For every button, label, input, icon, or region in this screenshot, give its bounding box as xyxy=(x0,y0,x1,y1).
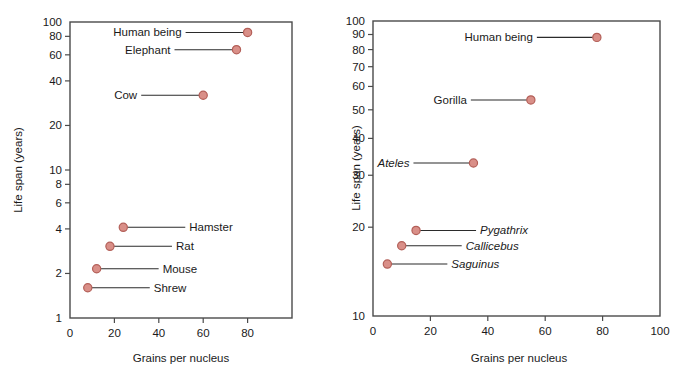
data-point: Human being xyxy=(113,26,252,38)
left-axis-tick-labels: 124681020406080100020406080 xyxy=(43,16,254,339)
right-xaxis-title: Grains per nucleus xyxy=(471,352,568,364)
right-xtick-label: 60 xyxy=(539,325,552,337)
data-point: Rat xyxy=(106,240,195,252)
right-ytick-label: 10 xyxy=(352,310,365,322)
left-ytick-label: 4 xyxy=(56,223,63,235)
data-point-label: Gorilla xyxy=(434,94,468,106)
data-point-label: Callicebus xyxy=(466,240,519,252)
data-point-label: Hamster xyxy=(189,221,233,233)
left-ytick-label: 10 xyxy=(49,164,62,176)
plot-right-svg: 102030405060708090100020406080100 Human … xyxy=(344,0,688,379)
right-plot-frame xyxy=(373,21,660,316)
data-point: Saguinus xyxy=(383,258,499,270)
plot-left-svg: 124681020406080100020406080 Human beingE… xyxy=(0,0,344,379)
right-xtick-label: 100 xyxy=(650,325,669,337)
left-ytick-label: 40 xyxy=(49,75,62,87)
data-point-label: Shrew xyxy=(154,282,187,294)
data-point-label: Ateles xyxy=(376,157,409,169)
data-point-label: Cow xyxy=(114,89,138,101)
left-data-points: Human beingElephantCowHamsterRatMouseShr… xyxy=(84,26,252,293)
figure-two-scatter-panels: 124681020406080100020406080 Human beingE… xyxy=(0,0,688,379)
data-point-label: Mouse xyxy=(163,263,198,275)
data-point: Hamster xyxy=(119,221,233,233)
data-point-label: Pygathrix xyxy=(480,224,529,236)
data-point: Shrew xyxy=(84,282,187,294)
panel-left-mammals: 124681020406080100020406080 Human beingE… xyxy=(0,0,344,379)
right-xtick-label: 0 xyxy=(370,325,376,337)
right-ytick-label: 100 xyxy=(346,15,365,27)
left-ytick-label: 60 xyxy=(49,49,62,61)
data-point: Gorilla xyxy=(434,94,535,106)
left-ytick-label: 2 xyxy=(56,267,62,279)
data-point: Elephant xyxy=(125,44,241,56)
right-ytick-label: 50 xyxy=(352,104,365,116)
right-xtick-label: 20 xyxy=(424,325,437,337)
data-point: Cow xyxy=(114,89,207,101)
data-point-label: Human being xyxy=(464,31,532,43)
left-axis-ticks xyxy=(65,36,248,323)
data-point-label: Human being xyxy=(113,26,181,38)
data-point: Mouse xyxy=(93,263,198,275)
right-ytick-label: 70 xyxy=(352,61,365,73)
left-ytick-label: 80 xyxy=(49,30,62,42)
left-ytick-label: 8 xyxy=(56,178,62,190)
panel-right-primates: 102030405060708090100020406080100 Human … xyxy=(344,0,688,379)
left-yaxis-title: Life span (years) xyxy=(12,127,24,213)
left-xtick-label: 80 xyxy=(241,327,254,339)
left-ytick-label: 20 xyxy=(49,119,62,131)
right-yaxis-title: Life span (years) xyxy=(350,125,362,211)
right-ytick-label: 80 xyxy=(352,44,365,56)
data-point: Human being xyxy=(464,31,601,43)
left-xtick-label: 20 xyxy=(108,327,121,339)
right-xtick-label: 80 xyxy=(596,325,609,337)
data-point: Ateles xyxy=(376,157,477,169)
data-point: Callicebus xyxy=(398,240,519,252)
left-ytick-label: 6 xyxy=(56,197,62,209)
right-ytick-label: 20 xyxy=(352,221,365,233)
right-data-points: Human beingGorillaAtelesPygathrixCallice… xyxy=(376,31,600,270)
data-point-label: Saguinus xyxy=(451,258,499,270)
right-xtick-label: 40 xyxy=(481,325,494,337)
left-ytick-label: 1 xyxy=(56,312,62,324)
left-xtick-label: 60 xyxy=(197,327,210,339)
data-point-label: Rat xyxy=(176,240,195,252)
right-ytick-label: 60 xyxy=(352,80,365,92)
left-xaxis-title: Grains per nucleus xyxy=(133,352,230,364)
right-axis-tick-labels: 102030405060708090100020406080100 xyxy=(346,15,670,337)
data-point: Pygathrix xyxy=(412,224,529,236)
right-axis-ticks xyxy=(368,34,603,321)
data-point-label: Elephant xyxy=(125,44,171,56)
left-ytick-label: 100 xyxy=(43,16,62,28)
right-ytick-label: 90 xyxy=(352,28,365,40)
left-xtick-label: 40 xyxy=(152,327,165,339)
left-xtick-label: 0 xyxy=(67,327,73,339)
